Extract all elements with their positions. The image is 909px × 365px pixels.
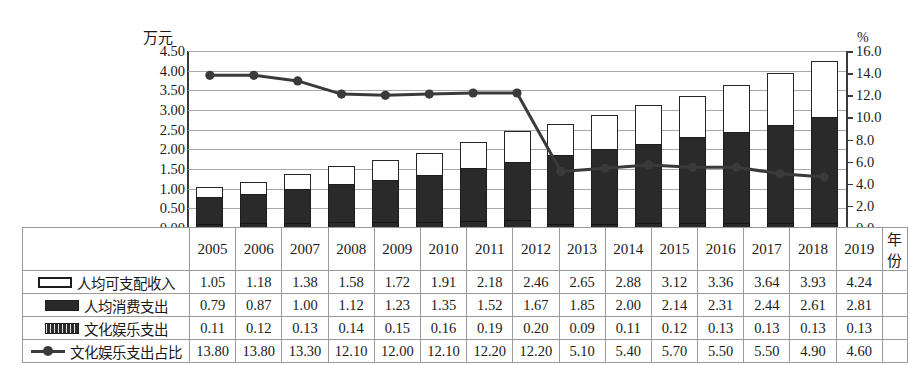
table-cell: 0.13: [282, 317, 328, 340]
line-marker: [688, 163, 697, 172]
right-axis-tick-label: 10.0: [856, 110, 904, 125]
legend-label: 人均消费支出: [84, 299, 168, 315]
table-cell: 1.35: [420, 294, 466, 317]
table-cell: 13.30: [282, 340, 328, 363]
table-cell: 3.36: [698, 271, 744, 294]
line-marker: [469, 88, 478, 97]
right-axis-tick-mark: [846, 117, 853, 119]
table-header-year: 2013: [559, 228, 605, 271]
table-cell: 12.20: [467, 340, 513, 363]
table-cell: 1.00: [282, 294, 328, 317]
table-cell: 12.10: [328, 340, 374, 363]
table-cell: 0.11: [605, 317, 651, 340]
chart-page: 万元 % 0.000.501.001.502.002.503.003.504.0…: [0, 0, 909, 365]
right-axis-tick-mark: [846, 162, 853, 164]
table-cell: 5.70: [651, 340, 697, 363]
table-cell: 3.12: [651, 271, 697, 294]
right-axis-tick-label: 4.0: [856, 177, 904, 192]
table-cell: 0.12: [236, 317, 282, 340]
table-row: 人均消费支出0.790.871.001.121.231.351.521.671.…: [23, 294, 908, 317]
legend-row-1[interactable]: 人均可支配收入: [23, 271, 190, 294]
table-cell: 0.12: [651, 317, 697, 340]
table-cell: 0.09: [559, 317, 605, 340]
table-cell: 0.13: [790, 317, 836, 340]
table-cell: 0.20: [513, 317, 559, 340]
left-axis-tick-label: 3.50: [140, 83, 185, 98]
table-cell: 0.13: [836, 317, 882, 340]
data-table-wrapper: 2005200620072008200920102011201220132014…: [22, 227, 888, 363]
table-cell: 2.44: [744, 294, 790, 317]
table-cell: 0.14: [328, 317, 374, 340]
table-cell: 3.93: [790, 271, 836, 294]
legend-swatch-income-icon: [38, 277, 72, 288]
table-cell: 4.90: [790, 340, 836, 363]
table-header-year: 2005: [190, 228, 236, 271]
table-cell: 1.23: [374, 294, 420, 317]
table-cell: 2.14: [651, 294, 697, 317]
legend-row-3[interactable]: 文化娱乐支出: [23, 317, 190, 340]
legend-label: 文化娱乐支出: [84, 322, 168, 338]
right-axis-tick-label: 6.0: [856, 155, 904, 170]
table-cell: 12.10: [420, 340, 466, 363]
right-axis-tick-label: 12.0: [856, 88, 904, 103]
table-cell: 0.15: [374, 317, 420, 340]
left-axis-tick-labels: 0.000.501.001.502.002.503.003.504.004.50: [140, 0, 185, 240]
table-cell: 2.46: [513, 271, 559, 294]
table-header-year: 2007: [282, 228, 328, 271]
legend-row-2[interactable]: 人均消费支出: [23, 294, 190, 317]
right-axis-tick-labels: 0.02.04.06.08.010.012.014.016.0: [856, 0, 904, 240]
table-cell: 2.00: [605, 294, 651, 317]
table-header-year: 2019: [836, 228, 882, 271]
line-marker: [249, 71, 258, 80]
right-axis-tick-mark: [846, 51, 853, 53]
right-axis-tick-label: 14.0: [856, 66, 904, 81]
table-row-tail-blank: [882, 317, 907, 340]
legend-swatch-consumption-icon: [45, 300, 79, 311]
table-cell: 0.16: [420, 317, 466, 340]
right-axis-tick-label: 8.0: [856, 133, 904, 148]
table-cell: 1.58: [328, 271, 374, 294]
table-row-tail-blank: [882, 271, 907, 294]
table-cell: 4.24: [836, 271, 882, 294]
right-axis-tick-mark: [846, 140, 853, 142]
table-header-year: 2017: [744, 228, 790, 271]
left-axis-tick-label: 1.50: [140, 162, 185, 177]
line-marker: [732, 163, 741, 172]
table-cell: 0.87: [236, 294, 282, 317]
table-cell: 13.80: [236, 340, 282, 363]
right-axis-tick-label: 2.0: [856, 199, 904, 214]
table-cell: 2.65: [559, 271, 605, 294]
table-cell: 1.91: [420, 271, 466, 294]
table-corner-blank: [23, 228, 190, 271]
left-axis-tick-label: 2.00: [140, 142, 185, 157]
table-header-year: 2015: [651, 228, 697, 271]
data-table: 2005200620072008200920102011201220132014…: [22, 227, 908, 363]
table-cell: 2.31: [698, 294, 744, 317]
chart-canvas: 万元 % 0.000.501.001.502.002.503.003.504.0…: [0, 0, 909, 240]
table-header-year: 2016: [698, 228, 744, 271]
table-cell: 0.11: [190, 317, 236, 340]
legend-label: 文化娱乐支出占比: [70, 345, 182, 361]
line-marker: [337, 90, 346, 99]
legend-row-4[interactable]: 文化娱乐支出占比: [23, 340, 190, 363]
table-cell: 5.40: [605, 340, 651, 363]
legend-swatch-culture-icon: [45, 323, 79, 334]
table-cell: 12.00: [374, 340, 420, 363]
line-marker: [776, 169, 785, 178]
table-cell: 5.10: [559, 340, 605, 363]
table-row-years: 2005200620072008200920102011201220132014…: [23, 228, 908, 271]
legend-swatch-share-line-icon: [31, 345, 65, 357]
line-marker: [600, 164, 609, 173]
table-header-year: 2014: [605, 228, 651, 271]
table-cell: 3.64: [744, 271, 790, 294]
table-cell: 2.81: [836, 294, 882, 317]
right-axis-tick-mark: [846, 95, 853, 97]
legend-label: 人均可支配收入: [77, 276, 175, 292]
left-axis-tick-label: 1.00: [140, 182, 185, 197]
plot-area: [188, 51, 846, 228]
table-header-year: 2009: [374, 228, 420, 271]
table-cell: 1.38: [282, 271, 328, 294]
table-cell: 0.19: [467, 317, 513, 340]
table-cell: 1.12: [328, 294, 374, 317]
table-cell: 4.60: [836, 340, 882, 363]
